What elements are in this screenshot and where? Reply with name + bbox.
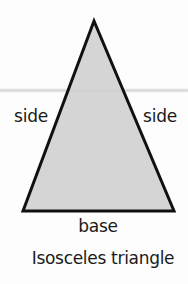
figure-caption: Isosceles triangle [0,248,188,268]
triangle-figure [0,0,188,284]
right-side-label: side [143,106,177,126]
left-side-label: side [14,106,48,126]
isosceles-triangle-diagram: side side base Isosceles triangle [0,0,188,284]
base-label: base [0,216,188,236]
